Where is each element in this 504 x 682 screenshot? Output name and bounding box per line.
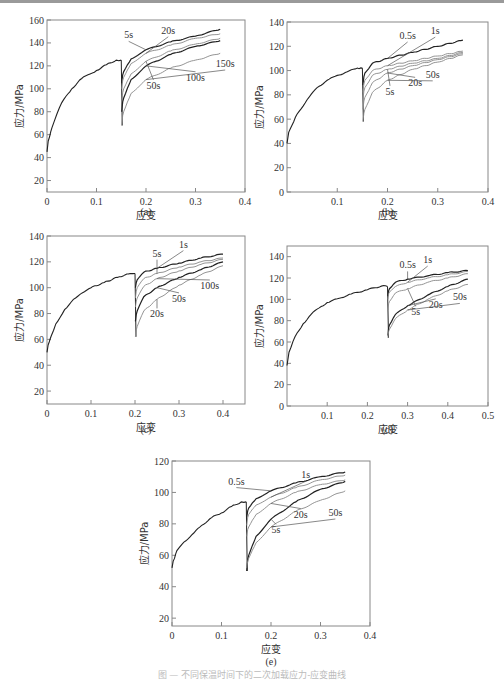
y-axis-label: 应力/MPa (13, 298, 25, 342)
y-tick-label: 40 (159, 581, 169, 592)
series-curve-150s (122, 53, 221, 125)
y-tick-label: 140 (29, 231, 44, 242)
y-tick-label: 80 (274, 89, 284, 100)
series-curve-5s (363, 52, 463, 99)
curve-annotation: 1s (431, 25, 440, 36)
y-axis-label: 应力/MPa (13, 84, 25, 128)
y-tick-label: 20 (34, 386, 44, 397)
y-tick-label: 40 (34, 152, 44, 163)
x-tick-label: 0.1 (321, 410, 334, 421)
x-tick-label: 0.4 (217, 408, 230, 419)
x-tick-label: 0.3 (314, 630, 327, 641)
y-tick-label: 60 (274, 114, 284, 125)
x-tick-label: 0.2 (361, 410, 374, 421)
preload-curve (287, 68, 362, 143)
curve-annotation: 20s (161, 25, 175, 36)
preload-curve (47, 60, 121, 152)
plot-frame (172, 461, 370, 626)
y-tick-label: 140 (269, 251, 284, 262)
x-tick-label: 0.4 (364, 630, 377, 641)
subfigure-label-e: (e) (172, 656, 370, 667)
curve-annotation: 20s (150, 308, 164, 319)
x-tick-label: 0.1 (215, 630, 228, 641)
y-axis-label: 应力/MPa (253, 85, 265, 129)
x-tick-label: 0.3 (401, 410, 414, 421)
x-tick-label: 0 (170, 630, 175, 641)
curve-annotation: 0.5s (228, 476, 245, 487)
curve-annotation: 1s (179, 239, 188, 250)
curve-annotation: 50s (172, 293, 186, 304)
y-tick-label: 140 (29, 37, 44, 48)
x-tick-label: 0.4 (442, 410, 455, 421)
y-tick-label: 80 (34, 106, 44, 117)
curve-annotation: 20s (408, 77, 422, 88)
y-tick-label: 100 (269, 294, 284, 305)
y-tick-label: 40 (274, 358, 284, 369)
x-tick-label: 0.3 (173, 408, 186, 419)
y-tick-label: 100 (29, 83, 44, 94)
preload-curve (47, 274, 135, 353)
x-tick-label: 0 (45, 408, 50, 419)
curve-annotation: 1s (301, 469, 310, 480)
chart-plot-c: 00.10.20.30.420406080100120140应变应力/MPa1s… (47, 236, 245, 404)
chart-plot-a: 00.10.20.30.420406080100120140160应变应力/MP… (47, 20, 245, 192)
x-tick-label: 0.1 (85, 408, 98, 419)
subfigure-label-b: (b) (287, 206, 488, 217)
y-tick-label: 40 (274, 138, 284, 149)
y-tick-label: 120 (269, 273, 284, 284)
subfigure-label-a: (a) (47, 206, 245, 217)
curve-annotation: 100s (200, 280, 219, 291)
y-tick-label: 20 (274, 379, 284, 390)
y-tick-label: 120 (29, 256, 44, 267)
x-tick-label: 0.5 (482, 410, 495, 421)
curve-annotation: 0.5s (399, 259, 416, 270)
plot-frame (287, 246, 488, 406)
chart-plot-d: 0.10.20.30.40.5020406080100120140应变应力/MP… (287, 246, 488, 406)
y-tick-label: 120 (29, 60, 44, 71)
curve-annotation: 50s (426, 69, 440, 80)
y-tick-label: 20 (274, 162, 284, 173)
y-tick-label: 140 (269, 17, 284, 28)
y-tick-label: 20 (34, 175, 44, 186)
y-axis-label: 应力/MPa (253, 304, 265, 348)
curve-annotation: 0.5s (399, 30, 416, 41)
figure-caption: 图 — 不同保温时间下的二次加载应力-应变曲线 (0, 668, 504, 681)
curve-annotation: 5s (411, 306, 420, 317)
y-tick-label: 60 (274, 337, 284, 348)
y-tick-label: 40 (34, 360, 44, 371)
plot-frame (287, 22, 488, 192)
page-top-rule (0, 0, 504, 3)
y-tick-label: 100 (154, 487, 169, 498)
curve-annotation: 5s (124, 29, 133, 40)
plot-frame (47, 20, 245, 192)
y-tick-label: 100 (29, 282, 44, 293)
y-tick-label: 100 (269, 65, 284, 76)
curve-annotation: 5s (386, 86, 395, 97)
x-axis-label: 应变 (261, 643, 281, 655)
chart-panel-c: 00.10.20.30.420406080100120140应变应力/MPa1s… (47, 236, 245, 404)
curve-annotation: 20s (294, 509, 308, 520)
x-tick-label: 0.2 (265, 630, 278, 641)
chart-panel-a: 00.10.20.30.420406080100120140160应变应力/MP… (47, 20, 245, 192)
curve-annotation: 50s (453, 291, 467, 302)
curve-annotation: 50s (146, 80, 160, 91)
y-tick-label: 0 (279, 187, 284, 198)
y-tick-label: 80 (34, 308, 44, 319)
curve-annotation: 20s (429, 299, 443, 310)
chart-panel-d: 0.10.20.30.40.5020406080100120140应变应力/MP… (287, 246, 488, 406)
curve-annotation: 50s (328, 507, 342, 518)
y-tick-label: 60 (34, 334, 44, 345)
series-curve-5s (247, 481, 346, 571)
y-tick-label: 20 (159, 613, 169, 624)
subfigure-label-c: (c) (47, 424, 245, 435)
y-tick-label: 120 (269, 41, 284, 52)
y-tick-label: 120 (154, 456, 169, 467)
y-tick-label: 80 (159, 518, 169, 529)
x-tick-label: 0.2 (129, 408, 142, 419)
y-axis-label: 应力/MPa (138, 522, 150, 566)
chart-panel-e: 00.10.20.30.420406080100120应变应力/MPa0.5s1… (172, 461, 370, 626)
y-tick-label: 60 (34, 129, 44, 140)
preload-curve (172, 502, 246, 568)
y-tick-label: 0 (279, 401, 284, 412)
curve-annotation: 150s (216, 58, 235, 69)
